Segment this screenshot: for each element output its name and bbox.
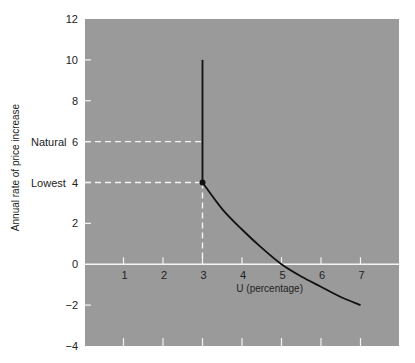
y-tick-label: −2 bbox=[65, 299, 78, 311]
x-tick-label: 7 bbox=[358, 269, 364, 281]
y-tick-label: 8 bbox=[72, 95, 78, 107]
x-tick-label: 4 bbox=[240, 269, 246, 281]
plot-area bbox=[85, 19, 399, 346]
x-tick-label: 2 bbox=[161, 269, 167, 281]
y-tick-label: 10 bbox=[66, 54, 78, 66]
y-tick-label: 6 bbox=[72, 136, 78, 148]
y-tick-label: −4 bbox=[65, 340, 78, 352]
x-tick-label: 3 bbox=[200, 269, 206, 281]
annotation-label-lowest: Lowest bbox=[31, 177, 66, 189]
annotation-label-natural: Natural bbox=[31, 136, 66, 148]
kink-point-marker bbox=[200, 180, 206, 186]
y-tick-label: 0 bbox=[72, 258, 78, 270]
y-tick-label: 2 bbox=[72, 217, 78, 229]
x-tick-label: 1 bbox=[121, 269, 127, 281]
x-tick-label: 5 bbox=[279, 269, 285, 281]
phillips-curve-chart: −4−20246810121234567NaturalLowest Annual… bbox=[0, 0, 415, 363]
x-axis-title: U (percentage) bbox=[236, 283, 303, 294]
y-axis-title: Annual rate of price increase bbox=[10, 103, 21, 231]
y-tick-label: 12 bbox=[66, 13, 78, 25]
x-tick-label: 6 bbox=[319, 269, 325, 281]
y-tick-label: 4 bbox=[72, 177, 78, 189]
